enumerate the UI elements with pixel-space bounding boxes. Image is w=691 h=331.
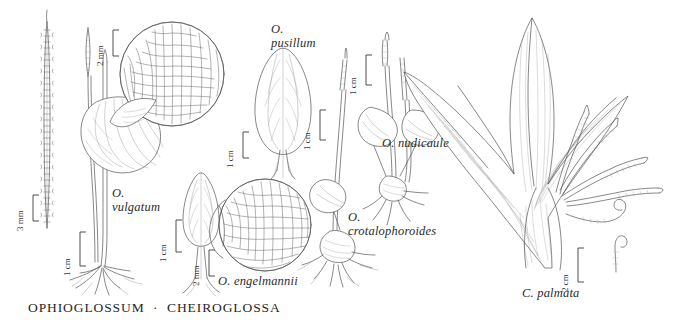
- species-label-pusillum-line1: O.: [271, 22, 284, 36]
- scale-label-2mm-vulgatum: 2 mm: [95, 45, 105, 66]
- species-label-pusillum-line2: pusillum: [271, 36, 316, 50]
- scale-label-1cm-engelmannii: 1 cm: [158, 244, 168, 262]
- scale-label-1cm-vulgatum: 1 cm: [62, 258, 72, 276]
- species-label-nudicaule: O. nudicaule: [382, 136, 449, 150]
- species-label-crotalophoroides: O.crotalophoroides: [348, 210, 436, 238]
- species-label-vulgatum-line1: O.: [112, 186, 125, 200]
- species-label-vulgatum: O.vulgatum: [112, 186, 160, 214]
- scale-label-1cm-pusillum: 1 cm: [225, 150, 235, 168]
- scale-label-2mm-engelmannii: 2 mm: [191, 265, 201, 286]
- species-label-palmata: C. palmata: [522, 286, 580, 300]
- scale-label-2cm-palmata: 2 cm: [560, 274, 570, 292]
- plate-caption: OPHIOGLOSSUM · CHEIROGLOSSA: [28, 300, 281, 316]
- species-label-vulgatum-line2: vulgatum: [112, 200, 160, 214]
- species-label-crotalophoroides-line2: crotalophoroides: [348, 224, 436, 238]
- scale-label-1cm-nudicaule: 1 cm: [348, 77, 358, 95]
- species-label-pusillum: O.pusillum: [271, 22, 316, 50]
- scale-label-1cm-crotalophoroides: 1 cm: [302, 132, 312, 150]
- species-label-crotalophoroides-line1: O.: [348, 210, 361, 224]
- scale-label-3mm: 3 mm: [15, 210, 25, 231]
- species-label-engelmannii: O. engelmannii: [218, 274, 298, 288]
